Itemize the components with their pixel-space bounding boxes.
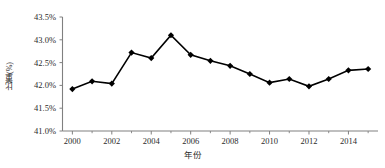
data-point-marker bbox=[345, 67, 351, 73]
data-point-marker bbox=[227, 63, 233, 69]
x-axis-title: 年份 bbox=[0, 148, 385, 160]
data-point-markers bbox=[69, 32, 371, 92]
data-point-marker bbox=[326, 76, 332, 82]
data-point-marker bbox=[286, 76, 292, 82]
data-point-marker bbox=[306, 83, 312, 89]
data-series-line bbox=[72, 35, 368, 89]
axis-lines bbox=[63, 17, 379, 131]
axis-ticks bbox=[60, 17, 369, 135]
line-chart: 比重(%) 41.0%41.5%42.0%42.5%43.0%43.5% 200… bbox=[0, 0, 385, 168]
plot-area bbox=[0, 0, 385, 168]
data-point-marker bbox=[207, 58, 213, 64]
data-point-marker bbox=[69, 86, 75, 92]
data-point-marker bbox=[365, 66, 371, 72]
data-point-marker bbox=[266, 80, 272, 86]
data-point-marker bbox=[247, 71, 253, 77]
data-point-marker bbox=[89, 78, 95, 84]
